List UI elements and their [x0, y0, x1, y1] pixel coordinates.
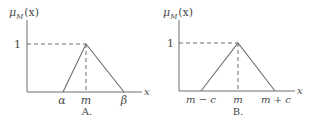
panel-a-caption: A. [81, 106, 92, 117]
panel-b-tick-m: m [233, 94, 242, 105]
panel-a-triangle [63, 44, 124, 92]
panel-b-y-axis-label: μM(x) [163, 6, 193, 21]
panel-a-y-axis-label: μM(x) [9, 6, 39, 21]
panel-b-tick-m-plus-c: m + c [261, 94, 291, 105]
panel-a-x-axis-label: x [144, 86, 150, 97]
panel-b-tick-m-minus-c: m − c [186, 94, 216, 105]
panel-a-tick-beta: β [120, 94, 127, 107]
panel-a-y-tick-1: 1 [14, 38, 21, 51]
membership-function-diagram: μM(x) x 1 α m β A. μM(x) x 1 m − c m m +… [0, 0, 317, 120]
panel-b: μM(x) x 1 m − c m m + c B. [163, 6, 303, 117]
panel-b-y-tick-1: 1 [167, 37, 174, 50]
panel-a-tick-alpha: α [58, 94, 66, 107]
panel-a: μM(x) x 1 α m β A. [9, 6, 150, 117]
panel-b-x-axis-label: x [297, 85, 303, 96]
panel-b-caption: B. [233, 106, 244, 117]
